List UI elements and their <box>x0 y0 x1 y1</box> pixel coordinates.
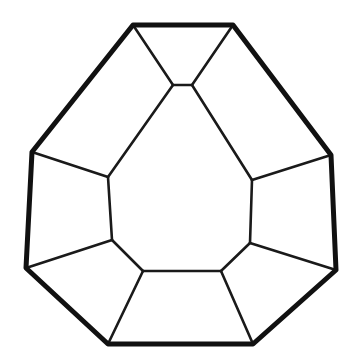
faces-group <box>26 25 336 344</box>
polyhedron-diagram <box>0 0 354 360</box>
figure-canvas <box>0 0 354 360</box>
